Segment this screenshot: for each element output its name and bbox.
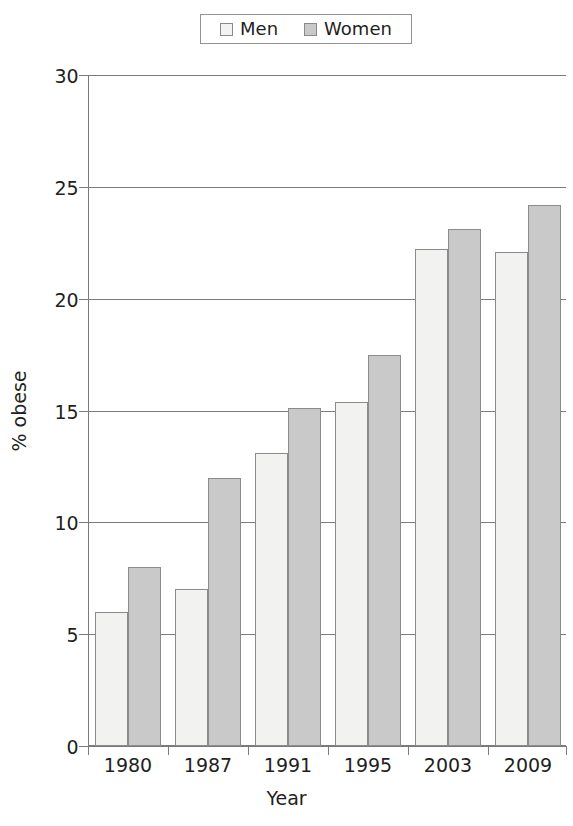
bar-men-1980[interactable] [95,612,128,746]
x-tick-1995 [328,746,329,755]
legend-entry-women: Women [304,20,392,38]
y-tick-30: 30 [79,75,88,76]
bar-women-1987[interactable] [208,478,241,746]
y-tick-20: 20 [79,299,88,300]
y-tick-label-20: 20 [54,290,78,309]
x-tick-2009 [488,746,489,755]
y-tick-0: 0 [79,746,88,747]
x-tick-label-1987: 1987 [168,756,248,775]
legend-entry-men: Men [220,20,278,38]
y-tick-label-25: 25 [54,178,78,197]
x-tick-end [566,746,567,755]
bar-group-2009 [488,75,568,746]
y-tick-5: 5 [79,634,88,635]
x-tick-1987 [168,746,169,755]
x-tick-label-1995: 1995 [328,756,408,775]
y-tick-15: 15 [79,411,88,412]
x-tick-label-2003: 2003 [408,756,488,775]
y-tick-25: 25 [79,187,88,188]
x-tick-1991 [248,746,249,755]
x-tick-label-1991: 1991 [248,756,328,775]
chart-page: Men Women % obese 0 5 10 15 [0,0,573,826]
bar-women-1991[interactable] [288,408,321,746]
y-axis-title: % obese [10,370,29,451]
bar-group-1980 [88,75,168,746]
bar-group-1991 [248,75,328,746]
x-tick-label-2009: 2009 [488,756,568,775]
bar-women-1995[interactable] [368,355,401,746]
bar-group-1995 [328,75,408,746]
bar-group-2003 [408,75,488,746]
bar-men-2003[interactable] [415,249,448,746]
y-tick-label-0: 0 [67,738,79,757]
legend-label-women: Women [324,20,392,38]
x-tick-1980 [88,746,89,755]
bar-women-2003[interactable] [448,229,481,746]
bar-men-1991[interactable] [255,453,288,746]
y-tick-label-15: 15 [54,402,78,421]
y-tick-label-5: 5 [67,626,79,645]
plot-area: 0 5 10 15 20 25 30 [88,75,566,746]
bar-men-1987[interactable] [175,589,208,746]
x-tick-2003 [408,746,409,755]
legend-label-men: Men [240,20,278,38]
bar-women-1980[interactable] [128,567,161,746]
gridline-0 [88,746,566,747]
x-axis-title: Year [0,789,573,808]
bar-women-2009[interactable] [528,205,561,746]
x-tick-label-1980: 1980 [88,756,168,775]
y-tick-10: 10 [79,522,88,523]
bar-men-1995[interactable] [335,402,368,746]
bar-men-2009[interactable] [495,252,528,746]
bar-group-1987 [168,75,248,746]
y-tick-label-30: 30 [54,67,78,86]
y-axis-title-wrap: % obese [8,0,38,826]
chart-legend: Men Women [200,14,412,44]
men-swatch-icon [220,23,233,36]
y-tick-label-10: 10 [54,514,78,533]
women-swatch-icon [304,23,317,36]
